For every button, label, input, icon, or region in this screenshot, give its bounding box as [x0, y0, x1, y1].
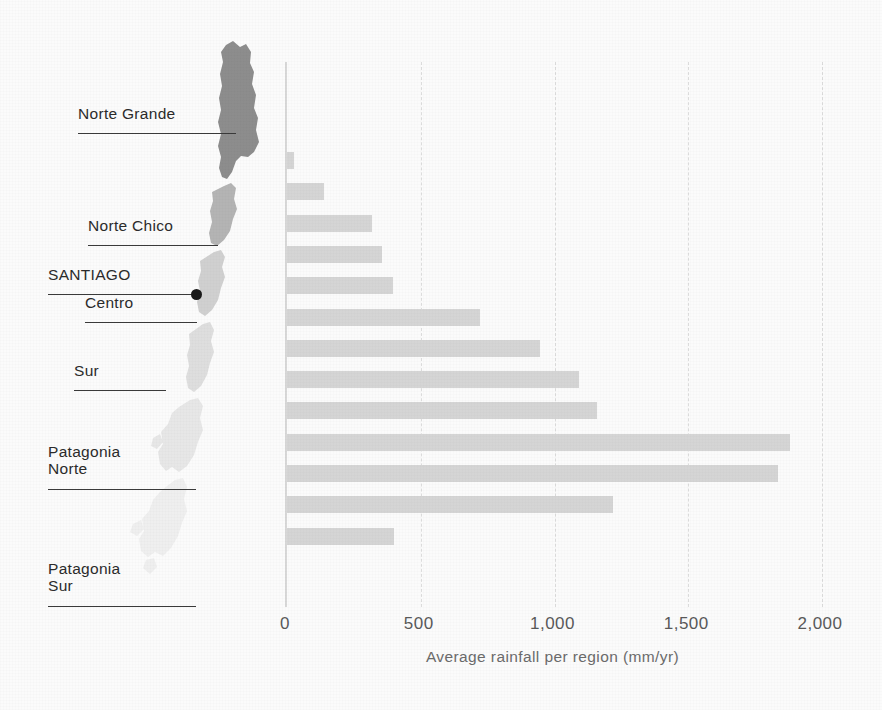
bar	[287, 528, 394, 545]
gridline-2000	[822, 62, 823, 607]
xtick-1000: 1,000	[530, 614, 575, 634]
callout-norte-chico: Norte Chico	[88, 217, 173, 234]
bar	[287, 402, 597, 419]
callout-norte-grande: Norte Grande	[78, 105, 176, 122]
map-region-norte-grande	[218, 41, 259, 179]
callout-patagonia-norte: Patagonia Norte	[48, 443, 121, 477]
callout-centro: Centro	[85, 294, 133, 311]
callout-santiago: SANTIAGO	[48, 266, 131, 283]
bar	[287, 152, 294, 169]
bar	[287, 371, 579, 388]
gridline-1000	[555, 62, 556, 607]
santiago-city-dot	[191, 289, 202, 300]
x-axis-title: Average rainfall per region (mm/yr)	[285, 648, 820, 666]
xtick-0: 0	[280, 614, 290, 634]
leader-norte-chico	[88, 245, 218, 246]
gridline-1500	[688, 62, 689, 607]
map-region-patagonia-norte	[151, 398, 203, 472]
chile-map-panel: Norte Grande Norte Chico SANTIAGO Centro…	[0, 0, 285, 640]
plot-area	[285, 62, 822, 607]
leader-centro	[85, 322, 197, 323]
xtick-500: 500	[404, 614, 434, 634]
xtick-1500: 1,500	[664, 614, 709, 634]
xtick-2000: 2,000	[797, 614, 842, 634]
bar	[287, 277, 393, 294]
map-region-patagonia-sur	[130, 478, 187, 574]
bar	[287, 465, 778, 482]
bar	[287, 434, 790, 451]
leader-patagonia-norte	[48, 489, 196, 490]
figure-canvas: Norte Grande Norte Chico SANTIAGO Centro…	[0, 0, 882, 710]
bar	[287, 496, 613, 513]
map-region-centro	[197, 250, 225, 316]
callout-sur: Sur	[74, 362, 99, 379]
leader-sur	[74, 390, 166, 391]
map-region-sur	[186, 322, 214, 392]
bar	[287, 340, 540, 357]
bar	[287, 309, 480, 326]
bar	[287, 183, 324, 200]
chile-map-svg	[0, 0, 285, 640]
map-region-norte-chico	[209, 183, 237, 246]
leader-patagonia-sur	[48, 606, 196, 607]
callout-patagonia-sur: Patagonia Sur	[48, 560, 121, 594]
gridline-500	[421, 62, 422, 607]
rainfall-bar-chart: 0 500 1,000 1,500 2,000 Average rainfall…	[285, 62, 820, 607]
bar	[287, 246, 382, 263]
leader-norte-grande	[78, 133, 236, 134]
bar	[287, 215, 372, 232]
